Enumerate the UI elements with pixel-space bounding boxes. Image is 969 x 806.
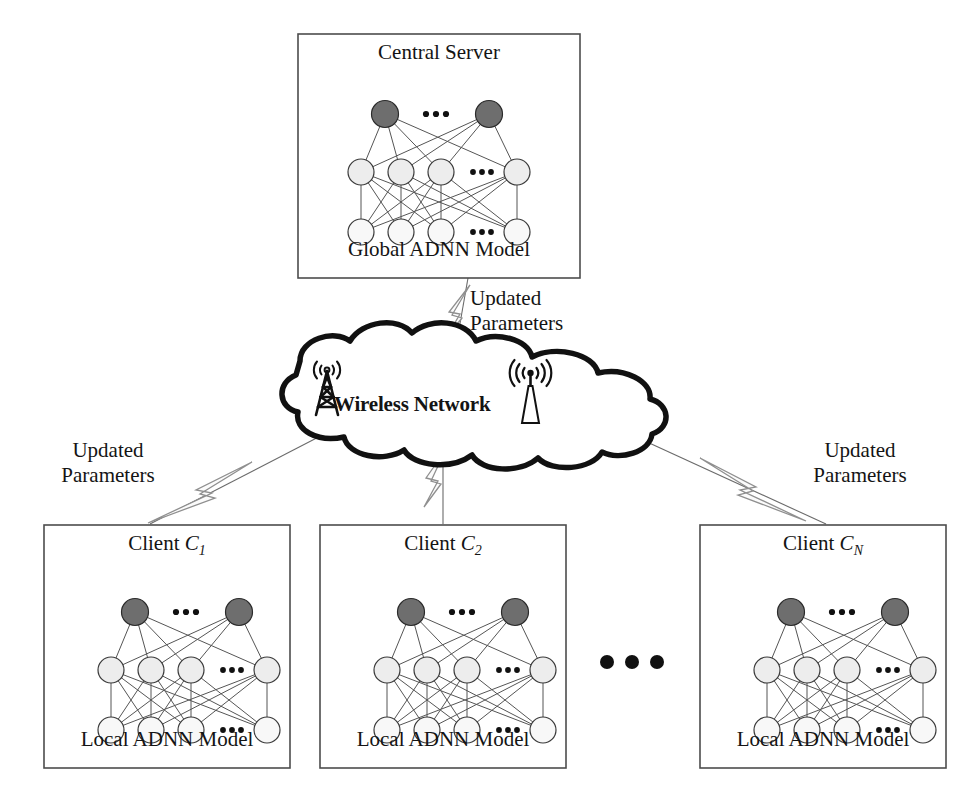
client-1-caption: Local ADNN Model	[44, 727, 290, 751]
updated-parameters-client1-line1: Updated	[8, 438, 208, 463]
central-server-title: Central Server	[298, 40, 580, 64]
client-n-title-symbol: C	[840, 531, 854, 555]
client-2-caption: Local ADNN Model	[320, 727, 566, 751]
wireless-network-label: Wireless Network	[334, 392, 490, 416]
updated-parameters-server-label: Updated Parameters	[470, 286, 610, 336]
global-model-caption: Global ADNN Model	[298, 237, 580, 261]
client-2-title-subscript: 2	[475, 543, 482, 558]
updated-parameters-client1-line2: Parameters	[8, 463, 208, 488]
client-2-title-prefix: Client	[404, 531, 461, 555]
client-1-title-prefix: Client	[128, 531, 185, 555]
client-1-title-subscript: 1	[199, 543, 206, 558]
client-1-title: Client C1	[44, 531, 290, 559]
client-n-title-prefix: Client	[783, 531, 840, 555]
updated-parameters-clientn-line2: Parameters	[760, 463, 960, 488]
client-n-caption: Local ADNN Model	[700, 727, 946, 751]
clients-ellipsis-icon	[600, 655, 664, 669]
updated-parameters-client1-label: Updated Parameters	[8, 438, 208, 488]
updated-parameters-server-line2: Parameters	[470, 311, 610, 336]
updated-parameters-clientn-label: Updated Parameters	[760, 438, 960, 488]
client-n-title: Client CN	[700, 531, 946, 559]
client-1-title-symbol: C	[185, 531, 199, 555]
updated-parameters-clientn-line1: Updated	[760, 438, 960, 463]
client-2-title-symbol: C	[461, 531, 475, 555]
diagram-canvas: Central Server Global ADNN Model Updated…	[0, 0, 969, 806]
client-n-title-subscript: N	[854, 543, 863, 558]
client-2-title: Client C2	[320, 531, 566, 559]
updated-parameters-server-line1: Updated	[470, 286, 610, 311]
